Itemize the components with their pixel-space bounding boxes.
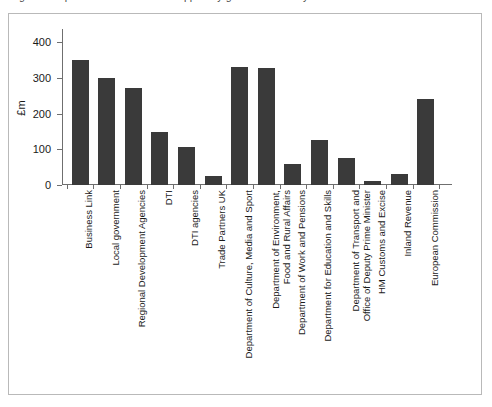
- x-axis-tick: [386, 185, 387, 189]
- x-axis-label: Trade Partners UK: [217, 190, 228, 390]
- bar: [231, 67, 248, 185]
- x-axis-tick: [120, 185, 121, 189]
- bar: [417, 99, 434, 185]
- x-axis-tick: [359, 185, 360, 189]
- bar: [151, 132, 168, 185]
- y-axis-tick: [57, 42, 62, 43]
- x-axis-label: Department of Work and Pensions: [297, 190, 308, 390]
- x-axis-tick: [439, 185, 440, 189]
- x-axis-tick: [173, 185, 174, 189]
- x-axis-label: Local government: [111, 190, 122, 390]
- y-axis-tick: [57, 185, 62, 186]
- y-axis-tick-label: 200: [15, 109, 51, 120]
- bar: [205, 176, 222, 185]
- bar: [391, 174, 408, 185]
- x-axis-tick: [306, 185, 307, 189]
- bar: [72, 60, 89, 185]
- x-axis-label: Regional Development Agencies: [137, 190, 148, 390]
- y-axis-tick-label: 300: [15, 73, 51, 84]
- x-axis-label: Department for Education and Skills: [323, 190, 334, 390]
- x-axis-label: DTI: [164, 190, 175, 390]
- figure-caption: Figure 3 Expenditure on business support…: [10, 0, 480, 4]
- x-axis-label: Department of Culture, Media and Sport: [244, 190, 255, 390]
- bar: [338, 158, 355, 185]
- x-axis-tick: [253, 185, 254, 189]
- x-axis-label: European Commission: [430, 190, 441, 390]
- bar: [311, 140, 328, 185]
- x-axis-tick: [200, 185, 201, 189]
- y-axis-tick-label: 100: [15, 144, 51, 155]
- bar: [125, 88, 142, 185]
- x-axis-label: Department of Environment, Food and Rura…: [271, 190, 292, 390]
- bar: [98, 78, 115, 185]
- x-axis-tick: [226, 185, 227, 189]
- y-axis-tick: [57, 114, 62, 115]
- x-axis-tick: [67, 185, 68, 189]
- bar: [178, 147, 195, 185]
- x-axis-label: Inland Revenue: [403, 190, 414, 390]
- y-axis-tick: [57, 78, 62, 79]
- x-axis-tick: [280, 185, 281, 189]
- y-axis-tick-label: 400: [15, 37, 51, 48]
- x-axis-label: Business Link: [84, 190, 95, 390]
- bar: [258, 68, 275, 185]
- bar-chart: £m 0100200300400 Business LinkLocal gove…: [9, 14, 483, 396]
- x-axis-labels: Business LinkLocal governmentRegional De…: [63, 190, 463, 395]
- bar: [364, 181, 381, 185]
- x-axis-label: HM Customs and Excise: [377, 190, 388, 390]
- x-axis-tick: [147, 185, 148, 189]
- x-axis-tick: [93, 185, 94, 189]
- x-axis-tick: [413, 185, 414, 189]
- y-axis-tick-label: 0: [15, 180, 51, 191]
- y-axis-tick: [57, 149, 62, 150]
- x-axis-label: DTI agencies: [190, 190, 201, 390]
- x-axis-tick: [333, 185, 334, 189]
- bar: [284, 164, 301, 185]
- x-axis-label: Department of Transport and Office of De…: [351, 190, 372, 390]
- figure-frame: £m 0100200300400 Business LinkLocal gove…: [8, 13, 482, 395]
